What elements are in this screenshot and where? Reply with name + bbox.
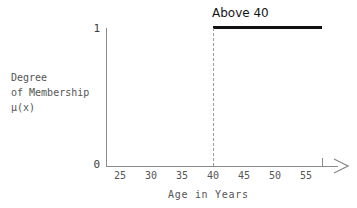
y-axis-line — [106, 28, 107, 167]
y-axis-tick-label-bottom: 0 — [86, 158, 100, 171]
x-axis-tick-label: 30 — [140, 170, 162, 181]
x-axis-tick-label: 35 — [171, 170, 193, 181]
membership-function-chart: Above 40 1 0 25 30 35 40 45 50 55 Age in… — [0, 0, 357, 208]
x-axis-title: Age in Years — [168, 189, 249, 200]
x-axis-tick-label: 45 — [233, 170, 255, 181]
series-label-above-40: Above 40 — [212, 6, 269, 20]
y-axis-title-line-3: μ(x) — [11, 100, 89, 115]
x-axis-tick-label: 40 — [202, 170, 224, 181]
threshold-guide-line — [213, 28, 214, 166]
step-function-plateau — [213, 26, 322, 29]
x-axis-line — [106, 166, 338, 167]
x-axis-tick-label: 55 — [295, 170, 317, 181]
x-axis-tick-label: 25 — [109, 170, 131, 181]
y-axis-tick-label-top: 1 — [86, 22, 100, 35]
x-axis-tick-label: 50 — [264, 170, 286, 181]
y-axis-title: Degree of Membership μ(x) — [11, 70, 89, 115]
y-axis-title-line-2: of Membership — [11, 85, 89, 100]
x-axis-end-tick — [322, 158, 323, 167]
y-axis-title-line-1: Degree — [11, 70, 89, 85]
x-axis-arrow-icon — [333, 157, 351, 175]
